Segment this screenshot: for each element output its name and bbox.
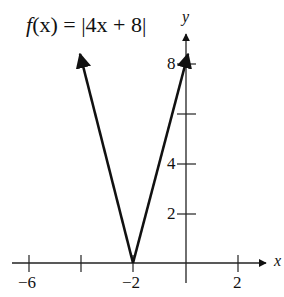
graph-right-branch xyxy=(133,54,188,263)
x-tick-label: 2 xyxy=(233,273,242,293)
equals-sign: = xyxy=(58,12,81,37)
x-tick-label: −6 xyxy=(18,273,36,293)
y-axis-label: y xyxy=(182,8,189,26)
y-tick-label: 8 xyxy=(167,54,176,74)
y-tick-label: 4 xyxy=(167,154,176,174)
y-tick-label: 2 xyxy=(167,204,176,224)
chart-canvas xyxy=(0,0,284,297)
graph-left-branch xyxy=(80,54,133,263)
x-axis-label: x xyxy=(274,252,281,270)
function-expression: |4x + 8| xyxy=(81,12,146,37)
chart-title: f(x) = |4x + 8| xyxy=(26,12,146,38)
function-arg: (x) xyxy=(32,12,58,37)
x-tick-label: −2 xyxy=(122,273,140,293)
